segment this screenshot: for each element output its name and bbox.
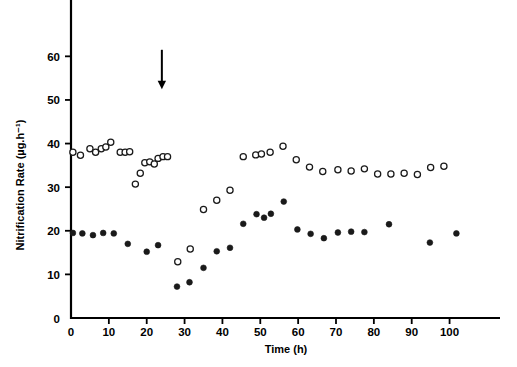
data-point-open bbox=[388, 171, 394, 177]
data-point-filled bbox=[144, 249, 150, 255]
data-point-filled bbox=[187, 279, 193, 285]
data-point-open bbox=[127, 149, 133, 155]
data-point-filled bbox=[254, 211, 260, 217]
data-point-filled bbox=[227, 245, 233, 251]
data-point-open bbox=[175, 259, 181, 265]
x-tick-label: 40 bbox=[216, 326, 229, 338]
chart-background bbox=[0, 0, 517, 367]
x-tick-label: 80 bbox=[367, 326, 380, 338]
x-tick-label: 70 bbox=[330, 326, 343, 338]
data-point-open bbox=[214, 197, 220, 203]
data-point-filled bbox=[308, 231, 314, 237]
data-point-open bbox=[240, 154, 246, 160]
data-point-open bbox=[441, 163, 447, 169]
data-point-open bbox=[227, 187, 233, 193]
x-tick-label: 10 bbox=[102, 326, 115, 338]
x-tick-label: 90 bbox=[405, 326, 418, 338]
data-point-open bbox=[108, 139, 114, 145]
data-point-filled bbox=[427, 240, 433, 246]
x-tick-label: 30 bbox=[178, 326, 191, 338]
data-point-open bbox=[280, 143, 286, 149]
data-point-filled bbox=[90, 232, 96, 238]
data-point-open bbox=[187, 246, 193, 252]
data-point-open bbox=[375, 171, 381, 177]
data-point-open bbox=[306, 164, 312, 170]
data-point-open bbox=[348, 168, 354, 174]
data-point-filled bbox=[155, 242, 161, 248]
data-point-filled bbox=[335, 230, 341, 236]
data-point-open bbox=[151, 161, 157, 167]
y-tick-label: 10 bbox=[47, 269, 60, 281]
data-point-filled bbox=[111, 230, 117, 236]
x-tick-label: 50 bbox=[254, 326, 267, 338]
data-point-filled bbox=[281, 199, 287, 205]
data-point-open bbox=[361, 166, 367, 172]
data-point-open bbox=[200, 206, 206, 212]
x-tick-label: 0 bbox=[68, 326, 74, 338]
nitrification-rate-scatter-chart: 0102030405060 0102030405060708090100 Tim… bbox=[0, 0, 517, 367]
data-point-open bbox=[258, 151, 264, 157]
data-point-filled bbox=[100, 230, 106, 236]
data-point-open bbox=[70, 149, 76, 155]
data-point-filled bbox=[79, 230, 85, 236]
x-tick-label: 20 bbox=[140, 326, 153, 338]
y-tick-label: 20 bbox=[47, 225, 60, 237]
y-tick-label: 30 bbox=[47, 182, 60, 194]
data-point-open bbox=[401, 170, 407, 176]
data-point-open bbox=[428, 164, 434, 170]
data-point-filled bbox=[294, 227, 300, 233]
x-tick-label: 60 bbox=[292, 326, 305, 338]
data-point-open bbox=[132, 181, 138, 187]
data-point-open bbox=[103, 144, 109, 150]
data-point-filled bbox=[453, 230, 459, 236]
x-axis-title: Time (h) bbox=[265, 343, 308, 355]
chart-figure: 0102030405060 0102030405060708090100 Tim… bbox=[0, 0, 517, 367]
data-point-filled bbox=[70, 230, 76, 236]
data-point-filled bbox=[214, 248, 220, 254]
data-point-open bbox=[93, 149, 99, 155]
x-tick-label: 100 bbox=[440, 326, 459, 338]
data-point-open bbox=[335, 167, 341, 173]
data-point-open bbox=[87, 146, 93, 152]
data-point-filled bbox=[348, 229, 354, 235]
y-tick-label: 50 bbox=[47, 94, 60, 106]
data-point-filled bbox=[201, 265, 207, 271]
y-tick-label: 0 bbox=[54, 313, 60, 325]
y-tick-label: 40 bbox=[47, 138, 60, 150]
data-point-open bbox=[164, 154, 170, 160]
data-point-open bbox=[77, 152, 83, 158]
data-point-filled bbox=[261, 215, 267, 221]
data-point-open bbox=[293, 157, 299, 163]
y-axis-title: Nitrification Rate (µg.h⁻¹) bbox=[14, 119, 26, 250]
data-point-filled bbox=[321, 235, 327, 241]
data-point-open bbox=[137, 170, 143, 176]
data-point-open bbox=[414, 171, 420, 177]
data-point-open bbox=[267, 149, 273, 155]
data-point-filled bbox=[268, 211, 274, 217]
data-point-filled bbox=[386, 221, 392, 227]
data-point-open bbox=[320, 168, 326, 174]
data-point-filled bbox=[361, 229, 367, 235]
data-point-filled bbox=[240, 221, 246, 227]
data-point-filled bbox=[125, 241, 131, 247]
y-tick-label: 60 bbox=[47, 51, 60, 63]
data-point-filled bbox=[174, 284, 180, 290]
